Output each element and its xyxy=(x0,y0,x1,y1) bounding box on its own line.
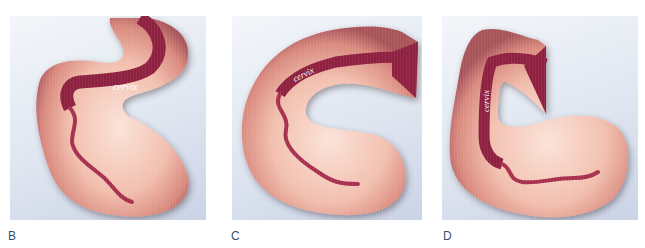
panel-label-c: C xyxy=(231,229,240,243)
uterus-illustration-d: cervix xyxy=(442,16,638,220)
panel-label-b: B xyxy=(8,229,16,243)
cervix-annotation-d: cervix xyxy=(481,90,491,112)
panel-label-d: D xyxy=(443,229,452,243)
panel-d: cervix xyxy=(442,16,638,220)
panel-c: cervix xyxy=(232,16,422,220)
uterus-illustration-c: cervix xyxy=(232,16,422,220)
cervix-annotation-b: cervix xyxy=(113,81,138,92)
panel-b: cervix xyxy=(10,16,206,220)
uterus-illustration-b: cervix xyxy=(10,16,206,220)
